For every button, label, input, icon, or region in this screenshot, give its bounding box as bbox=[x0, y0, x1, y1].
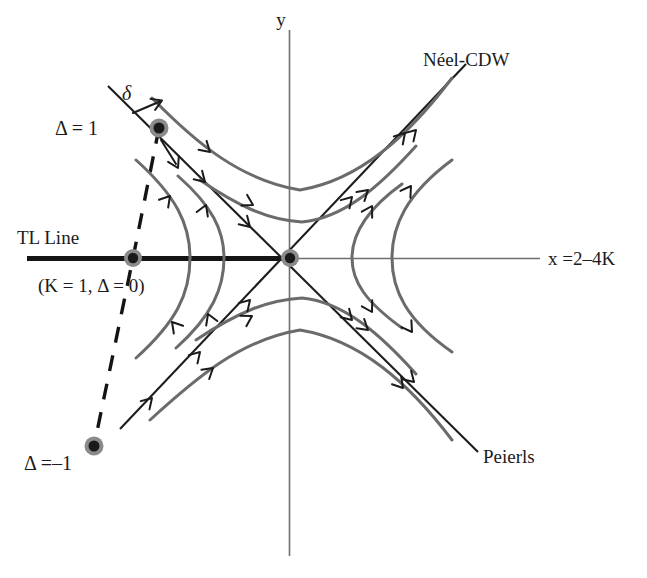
arrowhead-right-upper-down bbox=[362, 300, 377, 315]
flow-right-upper bbox=[352, 184, 402, 328]
flow-upper-inner bbox=[200, 146, 416, 222]
tl-point-label: (K = 1, Δ = 0) bbox=[38, 275, 144, 297]
arrowhead-right-outer-down bbox=[401, 320, 417, 335]
rg-flow-diagram: y x =2–4K TL Line (K = 1, Δ = 0) Δ = 1 Δ… bbox=[0, 0, 647, 578]
fixed-point-origin bbox=[281, 249, 299, 267]
delta-plus-one-label: Δ = 1 bbox=[55, 117, 98, 139]
delta-symbol-label: δ bbox=[122, 82, 132, 104]
labels-group: y x =2–4K TL Line (K = 1, Δ = 0) Δ = 1 Δ… bbox=[17, 9, 615, 474]
peierls-label: Peierls bbox=[483, 446, 535, 467]
separatrix-arrowheads-group bbox=[141, 126, 421, 410]
diagram-canvas: y x =2–4K TL Line (K = 1, Δ = 0) Δ = 1 Δ… bbox=[0, 0, 647, 578]
fixed-point-delta-plus-one bbox=[150, 119, 169, 138]
delta-annotation-arrow bbox=[133, 95, 164, 113]
x-axis-label: x =2–4K bbox=[548, 248, 615, 269]
arrowhead-neel-near-delta-minus bbox=[141, 394, 157, 410]
delta-minus-one-label: Δ =–1 bbox=[24, 452, 72, 474]
fixed-point-delta-minus-one bbox=[85, 437, 104, 456]
arrowhead-neel-inward-lower bbox=[189, 348, 205, 364]
flow-lower-inner bbox=[196, 298, 416, 374]
neel-cdw-label: Néel-CDW bbox=[423, 49, 510, 70]
separatrix-peierls bbox=[108, 86, 478, 452]
flow-right-outer bbox=[392, 160, 452, 352]
fixed-point-tl bbox=[124, 249, 142, 267]
flow-lower-outer bbox=[150, 330, 452, 440]
tl-line-label: TL Line bbox=[17, 227, 79, 248]
flow-left-inner bbox=[176, 176, 224, 348]
y-axis-label: y bbox=[276, 9, 286, 30]
